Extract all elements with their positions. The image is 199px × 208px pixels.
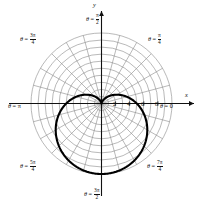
r-tick-label-2: 2 [113,101,116,107]
theta-label-5pi-4: θ = 5π4 [20,160,36,172]
theta-label-pi-2: θ = π2 [86,13,99,25]
polar-plot-figure: y x 2 4 6 8 θ = π2 θ = π4 θ = 3π4 θ = π … [0,0,199,208]
r-tick-label-8: 8 [155,101,158,107]
theta-label-3pi-2: θ = 3π2 [84,188,100,200]
x-axis-label: x [185,91,188,98]
r-tick-label-4: 4 [127,101,130,107]
theta-label-7pi-4: θ = 7π4 [147,160,163,172]
y-axis-label: y [93,1,96,8]
theta-label-3pi-4: θ = 3π4 [20,33,36,45]
theta-label-pi-4: θ = π4 [148,33,161,45]
r-tick-label-6: 6 [141,101,144,107]
theta-label-pi: θ = π [8,103,21,109]
theta-label-0: θ = 0 [160,103,173,109]
